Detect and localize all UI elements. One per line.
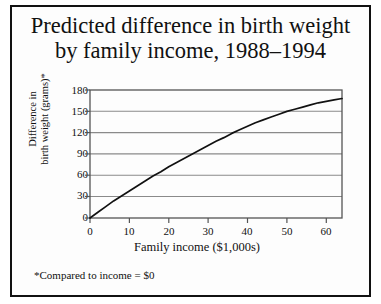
gridlines — [90, 111, 342, 196]
chart-canvas — [12, 7, 373, 299]
y-tick-marks — [85, 90, 90, 218]
data-series-line — [90, 99, 342, 218]
plot-area: Difference in birth weight (grams)* 180 … — [12, 7, 373, 299]
figure-frame: Predicted difference in birth weight by … — [10, 5, 371, 297]
x-tick-marks — [90, 218, 326, 223]
footnote-text: *Compared to income = $0 — [34, 269, 154, 281]
